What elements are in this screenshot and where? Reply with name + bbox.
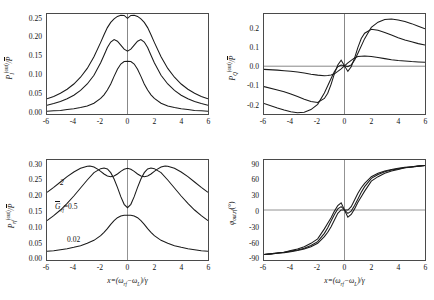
ytick-tl-0: 0.25 <box>14 14 42 23</box>
xtick-bl-3: 0 <box>118 263 138 272</box>
ytick-tr-3: -0.1 <box>231 81 259 90</box>
xtick-bl-1: -4 <box>63 263 83 272</box>
xtick-tr-3: 0 <box>335 117 355 126</box>
ytick-bl-5: 0.05 <box>14 239 42 248</box>
xtick-tl-0: -6 <box>36 117 56 126</box>
xtick-tr-2: -2 <box>307 117 327 126</box>
xtick-tl-4: 2 <box>145 117 165 126</box>
xtick-bl-5: 4 <box>172 263 192 272</box>
xtick-tl-3: 0 <box>118 117 138 126</box>
xtick-tr-6: 6 <box>416 117 434 126</box>
plot-svg-top-right <box>264 14 425 114</box>
xtick-tl-6: 6 <box>199 117 219 126</box>
ytick-br-3: 0 <box>233 207 259 216</box>
ytick-br-0: 90 <box>233 160 259 169</box>
panel-top-right: PQ(out)/P 0.2 0.1 0.0 -0.1 -0.2 -6 -4 -2 <box>217 0 434 150</box>
ytick-tr-4: -0.2 <box>231 101 259 110</box>
ytick-tl-2: 0.15 <box>14 51 42 60</box>
ytick-tr-2: 0.0 <box>235 62 259 71</box>
panel-top-left: PI(out)/P 0.25 0.20 0.15 0.10 0.05 0.00 … <box>0 0 217 150</box>
ytick-br-6: -90 <box>229 254 259 263</box>
axis-lines-top-right <box>264 14 425 114</box>
xtick-br-5: 4 <box>389 263 409 272</box>
xtick-tl-5: 4 <box>172 117 192 126</box>
ytick-tl-5: 0.00 <box>14 108 42 117</box>
ytick-br-2: 30 <box>233 191 259 200</box>
axis-label-x-bottom-left: x=(ωrf−ωL)/γ <box>46 276 209 287</box>
xtick-br-3: 0 <box>335 263 355 272</box>
xtick-br-2: -2 <box>307 263 327 272</box>
curve-annotation-0p02: 0.02 <box>67 235 80 244</box>
ytick-bl-3: 0.15 <box>14 207 42 216</box>
xtick-tr-5: 4 <box>389 117 409 126</box>
plot-area-top-left <box>46 13 209 115</box>
xtick-tr-4: 2 <box>362 117 382 126</box>
figure-root: PI(out)/P 0.25 0.20 0.15 0.10 0.05 0.00 … <box>0 0 434 300</box>
xtick-bl-2: -2 <box>90 263 110 272</box>
panel-bottom-right: φout,rf(°) 90 60 30 0 -30 -60 -90 -6 -4 <box>217 150 434 300</box>
xtick-br-6: 6 <box>416 263 434 272</box>
plot-svg-top-left <box>47 14 208 114</box>
xtick-bl-4: 2 <box>145 263 165 272</box>
xtick-br-1: -4 <box>280 263 300 272</box>
xtick-bl-6: 6 <box>199 263 219 272</box>
xtick-br-4: 2 <box>362 263 382 272</box>
plot-area-bottom-right <box>263 159 426 261</box>
ytick-tr-0: 0.2 <box>235 24 259 33</box>
ytick-tr-1: 0.1 <box>235 43 259 52</box>
plot-area-top-right <box>263 13 426 115</box>
axis-label-x-bottom-right: x=(ωrf−ωL)/γ <box>263 276 426 287</box>
plot-svg-bottom-right <box>264 160 425 260</box>
panel-bottom-left: Prf(out)/P 0.30 0.25 0.20 0.15 0.10 0.05… <box>0 150 217 300</box>
ytick-tl-4: 0.05 <box>14 89 42 98</box>
xtick-br-0: -6 <box>253 263 273 272</box>
ytick-br-1: 60 <box>233 175 259 184</box>
ytick-br-5: -60 <box>229 239 259 248</box>
ytick-bl-1: 0.25 <box>14 175 42 184</box>
xtick-tl-2: -2 <box>90 117 110 126</box>
ytick-tl-1: 0.20 <box>14 32 42 41</box>
ytick-tl-3: 0.10 <box>14 70 42 79</box>
ytick-bl-6: 0.00 <box>14 254 42 263</box>
curve-annotation-2: 2 <box>60 178 64 187</box>
xtick-tl-1: -4 <box>63 117 83 126</box>
curve-annotation-0p5: Grf=0.5 <box>55 202 77 213</box>
ytick-br-4: -30 <box>229 223 259 232</box>
xtick-tr-1: -4 <box>280 117 300 126</box>
ytick-bl-2: 0.20 <box>14 191 42 200</box>
ytick-bl-4: 0.10 <box>14 223 42 232</box>
xtick-tr-0: -6 <box>253 117 273 126</box>
ytick-bl-0: 0.30 <box>14 160 42 169</box>
xtick-bl-0: -6 <box>36 263 56 272</box>
